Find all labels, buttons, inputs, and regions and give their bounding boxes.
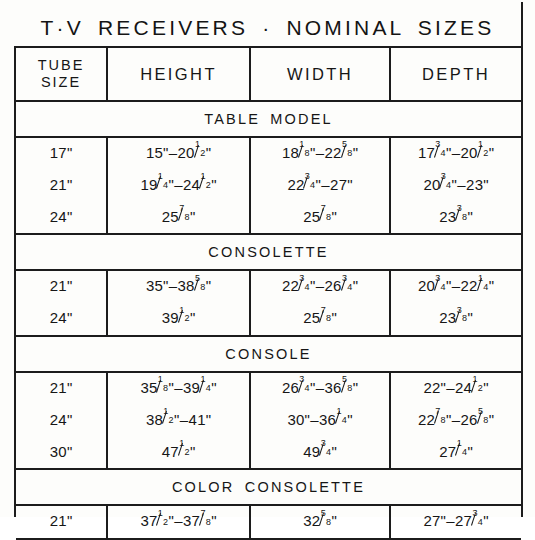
fraction-glyph: 78: [435, 410, 445, 425]
fraction-glyph: 12: [195, 143, 205, 158]
cell-depth: 2034"–23": [390, 170, 521, 202]
fraction-glyph: 12: [200, 175, 210, 190]
cell-depth: 27"–2734": [390, 505, 521, 539]
sizes-table: TUBESIZEHEIGHTWIDTHDEPTHTABLE MODEL17"15…: [16, 48, 521, 540]
section-band-label: COLOR CONSOLETTE: [16, 469, 521, 505]
cell-height: 3912": [107, 303, 250, 336]
fraction-glyph: 78: [179, 207, 189, 222]
section-band-label: CONSOLE: [16, 336, 521, 372]
cell-width: 4934": [250, 437, 390, 470]
cell-height: 3812"–41": [107, 405, 250, 437]
fraction-glyph: 34: [441, 175, 451, 190]
cell-tube: 21": [16, 270, 107, 303]
fraction-glyph: 58: [342, 378, 352, 393]
cell-tube: 17": [16, 137, 107, 170]
fraction-glyph: 14: [457, 442, 467, 457]
cell-tube: 21": [16, 372, 107, 405]
page-title: T·V RECEIVERS · NOMINAL SIZES: [0, 10, 535, 46]
fraction-glyph: 38: [457, 207, 467, 222]
fraction-glyph: 78: [321, 309, 331, 324]
fraction-glyph: 14: [478, 277, 488, 292]
cell-tube: 24": [16, 405, 107, 437]
cell-tube: 30": [16, 437, 107, 470]
cell-height: 3712"–3778": [107, 505, 250, 539]
fraction-glyph: 34: [299, 277, 309, 292]
fraction-glyph: 34: [321, 442, 331, 457]
column-header-tube: TUBESIZE: [16, 48, 107, 101]
table-row: 21"1914"–2412"2234"–27"2034"–23": [16, 170, 521, 202]
cell-depth: 2714": [390, 437, 521, 470]
section-band-label: TABLE MODEL: [16, 101, 521, 137]
cell-width: 3258": [250, 505, 390, 539]
cell-tube: 21": [16, 505, 107, 539]
fraction-glyph: 14: [158, 175, 168, 190]
table-row: 24"3812"–41"30"–3614"2278"–2658": [16, 405, 521, 437]
section-band-console: CONSOLE: [16, 336, 521, 372]
fraction-glyph: 18: [158, 378, 168, 393]
cell-width: 2234"–27": [250, 170, 390, 202]
column-header-height: HEIGHT: [107, 48, 250, 101]
cell-depth: 2034"–2214": [390, 270, 521, 303]
cell-width: 2578": [250, 303, 390, 336]
fraction-glyph: 58: [195, 277, 205, 292]
cell-height: 4712": [107, 437, 250, 470]
cell-width: 2634"–3658": [250, 372, 390, 405]
cell-tube: 21": [16, 170, 107, 202]
fraction-glyph: 58: [478, 410, 488, 425]
table-row: 21"3518"–3914"2634"–3658"22"–2412": [16, 372, 521, 405]
fraction-glyph: 58: [342, 143, 352, 158]
cell-width: 30"–3614": [250, 405, 390, 437]
fraction-glyph: 58: [321, 512, 331, 527]
column-header-line-1: TUBE: [16, 57, 106, 74]
table-row: 30"4712"4934"2714": [16, 437, 521, 470]
cell-tube: 24": [16, 303, 107, 336]
cell-depth: 2278"–2658": [390, 405, 521, 437]
fraction-glyph: 78: [200, 512, 210, 527]
cell-height: 1914"–2412": [107, 170, 250, 202]
fraction-glyph: 18: [299, 143, 309, 158]
fraction-glyph: 34: [435, 277, 445, 292]
fraction-glyph: 12: [472, 378, 482, 393]
fraction-glyph: 78: [321, 207, 331, 222]
table-row: 21"35"–3858"2234"–2634"2034"–2214": [16, 270, 521, 303]
section-band-table-model: TABLE MODEL: [16, 101, 521, 137]
table-row: 17"15"–2012"1818"–2258"1734"–2012": [16, 137, 521, 170]
cell-depth: 1734"–2012": [390, 137, 521, 170]
sizes-table-body: TUBESIZEHEIGHTWIDTHDEPTHTABLE MODEL17"15…: [16, 48, 521, 539]
fraction-glyph: 34: [472, 512, 482, 527]
cell-height: 2578": [107, 202, 250, 235]
column-header-depth: DEPTH: [390, 48, 521, 101]
sizes-table-frame: TUBESIZEHEIGHTWIDTHDEPTHTABLE MODEL17"15…: [14, 46, 523, 517]
table-header-row: TUBESIZEHEIGHTWIDTHDEPTH: [16, 48, 521, 101]
cell-width: 2234"–2634": [250, 270, 390, 303]
table-row: 24"3912"2578"2338": [16, 303, 521, 336]
table-row: 21"3712"–3778"3258"27"–2734": [16, 505, 521, 539]
cell-depth: 2338": [390, 202, 521, 235]
cell-width: 1818"–2258": [250, 137, 390, 170]
cell-height: 15"–2012": [107, 137, 250, 170]
fraction-glyph: 34: [305, 175, 315, 190]
section-band-label: CONSOLETTE: [16, 234, 521, 270]
table-row: 24"2578"2578"2338": [16, 202, 521, 235]
fraction-glyph: 12: [179, 309, 189, 324]
fraction-glyph: 38: [457, 309, 467, 324]
fraction-glyph: 12: [478, 143, 488, 158]
fraction-glyph: 14: [336, 410, 346, 425]
column-header-width: WIDTH: [250, 48, 390, 101]
cell-depth: 2338": [390, 303, 521, 336]
fraction-glyph: 34: [342, 277, 352, 292]
page-title-text: T·V RECEIVERS · NOMINAL SIZES: [41, 16, 495, 40]
cell-height: 35"–3858": [107, 270, 250, 303]
cell-height: 3518"–3914": [107, 372, 250, 405]
section-band-color-consolette: COLOR CONSOLETTE: [16, 469, 521, 505]
cell-tube: 24": [16, 202, 107, 235]
column-header-line-2: SIZE: [16, 74, 106, 91]
cell-depth: 22"–2412": [390, 372, 521, 405]
fraction-glyph: 14: [200, 378, 210, 393]
fraction-glyph: 12: [158, 512, 168, 527]
cell-width: 2578": [250, 202, 390, 235]
section-band-consolette: CONSOLETTE: [16, 234, 521, 270]
fraction-glyph: 34: [435, 143, 445, 158]
fraction-glyph: 12: [163, 410, 173, 425]
